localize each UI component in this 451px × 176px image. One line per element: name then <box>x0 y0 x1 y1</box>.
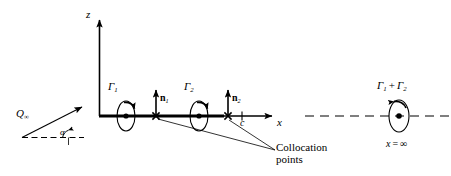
normal-1-subscript: 1 <box>166 97 169 104</box>
gamma-2-subscript: 2 <box>190 86 193 93</box>
freestream-symbol: Q <box>16 107 24 119</box>
freestream-vector <box>22 107 84 145</box>
wake-plus-sign: + <box>387 79 397 91</box>
vortex-panel-diagram: z x c Γ1 Γ2 n1 n2 Q∞ α Γ1+Γ2 x=∞ Colloca… <box>0 0 451 176</box>
normal-1-label: n1 <box>160 93 169 103</box>
freestream-subscript: ∞ <box>24 113 29 120</box>
infinity-symbol: ∞ <box>400 138 407 149</box>
collocation-points-caption: Collocation points <box>276 141 356 166</box>
normal-1-symbol: n <box>160 92 166 103</box>
wake-vortex <box>389 100 409 132</box>
wake-circulation-label: Γ1+Γ2 <box>377 80 407 91</box>
gamma-1-subscript: 1 <box>114 86 117 93</box>
normal-2-subscript: 2 <box>238 97 241 104</box>
normal-2-symbol: n <box>232 92 238 103</box>
x-axis-label: x <box>277 117 282 128</box>
vortex-point-1 <box>123 113 128 118</box>
freestream-arrow <box>22 107 82 138</box>
chord-label: c <box>240 118 244 128</box>
wake-gamma-2-subscript: 2 <box>403 85 406 92</box>
wake-vortex-point <box>396 113 402 119</box>
normal-2-label: n2 <box>232 93 241 103</box>
wake-position-label: x=∞ <box>386 139 407 149</box>
collocation-leader-lines <box>158 119 275 150</box>
gamma-1-label: Γ1 <box>108 81 118 92</box>
wake-gamma-1-subscript: 1 <box>383 85 386 92</box>
collocation-caption-line-1: Collocation <box>276 141 327 153</box>
freestream-label: Q∞ <box>16 108 29 119</box>
wake-equals-sign: = <box>390 138 400 149</box>
collocation-caption-line-2: points <box>276 153 303 165</box>
angle-of-attack-label: α <box>60 128 65 137</box>
vortex-point-2 <box>196 113 201 118</box>
gamma-2-label: Γ2 <box>184 81 194 92</box>
z-axis-label: z <box>86 9 90 20</box>
